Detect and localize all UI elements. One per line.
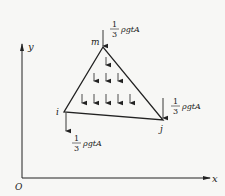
load-m-denominator: 3 [112,30,117,39]
nodal-load-j: 1 3 ρgtA [163,97,201,118]
load-j-denominator: 3 [173,107,178,116]
load-i-denominator: 3 [74,144,79,153]
triangle-element [64,47,163,120]
origin-label: O [15,182,23,192]
x-axis-label: x [212,173,218,184]
load-j-expression: ρgtA [181,102,201,111]
load-m-expression: ρgtA [120,25,140,34]
nodal-load-i: 1 3 ρgtA [66,113,102,153]
load-i-expression: ρgtA [82,139,102,148]
node-label-i: i [56,107,59,117]
element-diagram: y x O m i j 1 3 ρgtA [0,0,225,196]
y-axis-label: y [27,41,34,52]
node-label-m: m [91,37,100,47]
load-j-numerator: 1 [173,97,178,106]
diagram-canvas: y x O m i j 1 3 ρgtA [0,0,225,196]
node-label-j: j [158,124,163,134]
nodal-load-m: 1 3 ρgtA [103,20,140,46]
distributed-load-arrows [82,57,130,103]
load-m-numerator: 1 [112,20,117,29]
load-i-numerator: 1 [74,134,79,143]
